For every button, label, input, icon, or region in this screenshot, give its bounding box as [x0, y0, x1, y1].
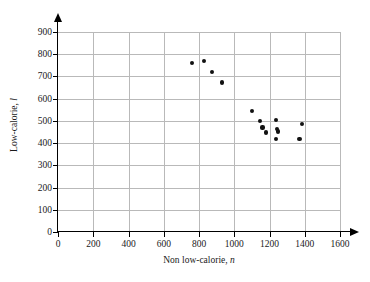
y-axis-tick-label: 700	[38, 71, 52, 81]
data-point	[258, 119, 262, 123]
scatter-chart: 0100200300400500600700800900 02004006008…	[0, 0, 370, 282]
y-axis-tick	[53, 165, 58, 166]
y-axis-line	[57, 20, 58, 233]
x-axis-label-text: Non low-calorie,	[163, 255, 227, 265]
x-axis-tick	[129, 232, 130, 237]
y-axis-tick-label: 900	[38, 27, 52, 37]
x-axis-tick-label: 200	[73, 239, 113, 249]
x-axis-line	[58, 231, 352, 232]
x-axis-label: Non low-calorie, n	[58, 255, 340, 265]
y-axis-tick-label: 200	[38, 183, 52, 193]
y-axis-tick	[53, 143, 58, 144]
gridline-vertical	[129, 32, 130, 232]
x-axis-tick-label: 1400	[285, 239, 325, 249]
data-point	[276, 129, 280, 133]
x-axis-tick-label: 400	[109, 239, 149, 249]
data-point	[190, 61, 194, 65]
data-point	[202, 59, 206, 63]
y-axis-arrow-icon	[54, 13, 62, 22]
gridline-vertical	[270, 32, 271, 232]
y-axis-tick-label: 800	[38, 49, 52, 59]
gridline-vertical	[93, 32, 94, 232]
x-axis-tick	[164, 232, 165, 237]
y-axis-tick-label: 100	[38, 205, 52, 215]
y-axis-tick	[53, 32, 58, 33]
x-axis-tick	[93, 232, 94, 237]
y-axis-tick	[53, 54, 58, 55]
data-point	[264, 130, 268, 134]
data-point	[250, 109, 254, 113]
data-point	[300, 122, 304, 126]
x-axis-tick	[270, 232, 271, 237]
x-axis-tick	[340, 232, 341, 237]
y-axis-tick	[53, 76, 58, 77]
x-axis-tick	[58, 232, 59, 237]
data-point	[297, 137, 301, 141]
data-point	[210, 70, 214, 74]
y-axis-tick	[53, 121, 58, 122]
x-axis-tick-label: 1600	[320, 239, 360, 249]
gridline-vertical	[340, 32, 341, 232]
gridline-vertical	[305, 32, 306, 232]
x-axis-arrow-icon	[350, 228, 359, 236]
y-axis-label-variable: l	[9, 98, 19, 101]
x-axis-label-variable: n	[230, 255, 235, 265]
x-axis-tick-label: 0	[38, 239, 78, 249]
gridline-vertical	[234, 32, 235, 232]
x-axis-tick	[199, 232, 200, 237]
y-axis-tick	[53, 210, 58, 211]
x-axis-tick-label: 1000	[214, 239, 254, 249]
x-axis-tick	[305, 232, 306, 237]
y-axis-label: Low-calorie, l	[9, 65, 19, 185]
y-axis-tick	[53, 188, 58, 189]
y-axis-tick-label: 400	[38, 138, 52, 148]
y-axis-tick-label: 600	[38, 94, 52, 104]
y-axis-tick-label: 500	[38, 116, 52, 126]
data-point	[260, 125, 264, 129]
plot-area	[58, 32, 340, 232]
data-point	[274, 137, 278, 141]
y-axis-tick-label: 300	[38, 160, 52, 170]
x-axis-tick-label: 800	[179, 239, 219, 249]
x-axis-tick-label: 600	[144, 239, 184, 249]
y-axis-label-text: Low-calorie,	[9, 103, 19, 152]
data-point	[220, 80, 224, 84]
gridline-vertical	[199, 32, 200, 232]
x-axis-tick-label: 1200	[250, 239, 290, 249]
y-axis-tick	[53, 99, 58, 100]
gridline-vertical	[164, 32, 165, 232]
y-axis-tick-label: 0	[47, 227, 52, 237]
x-axis-tick	[234, 232, 235, 237]
